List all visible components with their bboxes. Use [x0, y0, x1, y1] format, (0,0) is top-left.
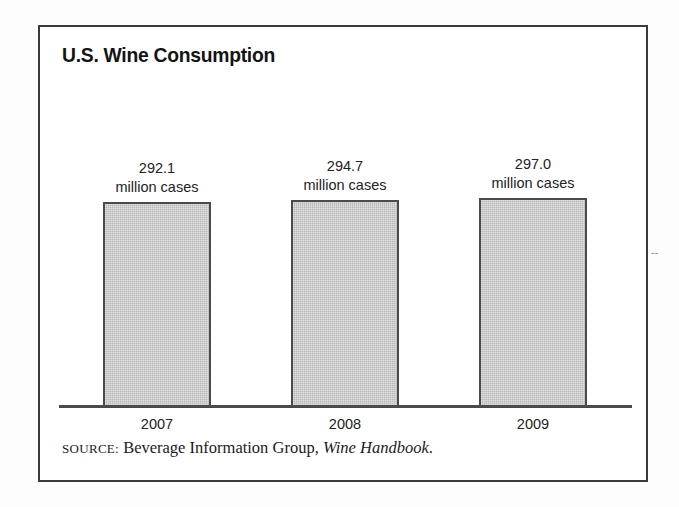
scanned-page: U.S. Wine Consumption 292.1 million case…: [0, 0, 679, 507]
figure-frame: U.S. Wine Consumption 292.1 million case…: [38, 25, 648, 482]
x-axis-line: [59, 405, 632, 408]
source-terminator: .: [429, 438, 433, 457]
bar-value-label-2008: 294.7 million cases: [291, 157, 399, 195]
bar-group-2008: 294.7 million cases: [291, 157, 399, 407]
bar-value-2009: 297.0: [479, 155, 587, 174]
bar-unit-2007: million cases: [103, 178, 211, 197]
plot-area: 292.1 million cases 294.7 million cases …: [59, 122, 632, 407]
bar-value-2008: 294.7: [291, 157, 399, 176]
x-tick-label-2009: 2009: [479, 416, 587, 432]
bar-group-2007: 292.1 million cases: [103, 159, 211, 407]
bar-group-2009: 297.0 million cases: [479, 155, 587, 407]
source-label: SOURCE:: [62, 441, 119, 456]
page-title: U.S. Wine Consumption: [62, 43, 275, 67]
x-tick-label-2007: 2007: [103, 416, 211, 432]
source-publication-title: Wine Handbook: [323, 438, 429, 457]
bar-2007: [103, 202, 211, 407]
scan-artifact: --: [651, 250, 660, 255]
source-publisher: Beverage Information Group,: [123, 438, 319, 457]
bar-value-2007: 292.1: [103, 159, 211, 178]
bar-unit-2009: million cases: [479, 174, 587, 193]
bar-value-label-2007: 292.1 million cases: [103, 159, 211, 197]
x-axis-tick-labels: 2007 2008 2009: [59, 416, 632, 440]
x-tick-label-2008: 2008: [291, 416, 399, 432]
bar-2008: [291, 200, 399, 407]
source-note: SOURCE: Beverage Information Group, Wine…: [62, 438, 433, 458]
bar-2009: [479, 198, 587, 407]
bar-unit-2008: million cases: [291, 176, 399, 195]
bar-value-label-2009: 297.0 million cases: [479, 155, 587, 193]
